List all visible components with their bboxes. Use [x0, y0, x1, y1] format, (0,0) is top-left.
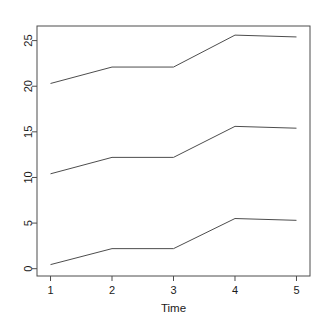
x-axis-tick-label: 5 [293, 284, 299, 296]
x-axis-tick-label: 3 [170, 284, 176, 296]
x-axis-title: Time [161, 302, 186, 314]
y-axis-tick-label: 25 [22, 34, 34, 46]
x-axis-tick-label: 2 [109, 284, 115, 296]
y-axis-tick-label: 10 [22, 171, 34, 183]
chart-container: 051015202512345Time Time [0, 0, 332, 325]
y-axis-tick-label: 5 [22, 220, 34, 226]
y-axis-tick-label: 20 [22, 80, 34, 92]
x-axis-tick-label: 4 [232, 284, 238, 296]
y-axis-tick-label: 15 [22, 126, 34, 138]
y-axis-tick-label: 0 [22, 266, 34, 272]
line-chart: 051015202512345Time [0, 0, 332, 325]
x-axis-tick-label: 1 [47, 284, 53, 296]
